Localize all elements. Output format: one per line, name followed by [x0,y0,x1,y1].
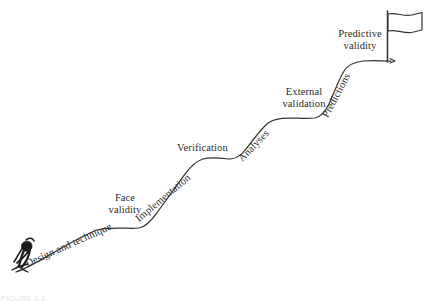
face-validity-line-1: Face [115,192,135,203]
predictive-validity-line-2: validity [344,40,377,51]
figure-caption: FIGURE 1.1 [1,294,46,303]
figure-validity-staircase: Design and technique Face validity Imple… [0,0,433,304]
predictive-validity-line-1: Predictive [338,28,382,39]
external-validation-line-1: External [286,86,322,97]
flag-icon [388,13,422,33]
step-label-predictive-validity: Predictive validity [330,28,390,51]
external-validation-line-2: validation [283,98,326,109]
step-label-verification: Verification [177,142,228,154]
